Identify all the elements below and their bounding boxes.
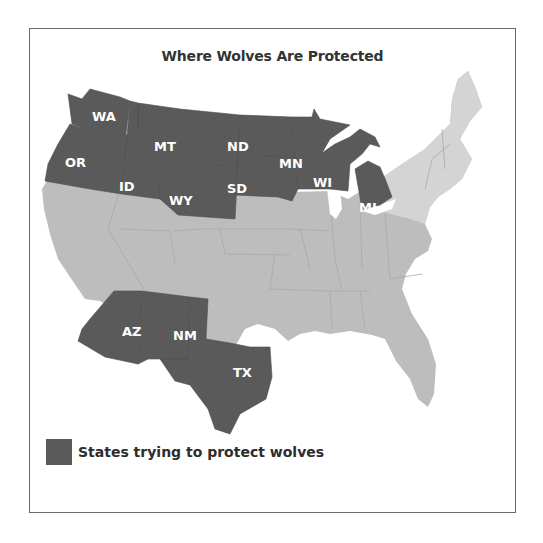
label-MN: MN xyxy=(279,156,303,171)
label-ID: ID xyxy=(119,179,135,194)
label-WI: WI xyxy=(313,175,332,190)
label-WY: WY xyxy=(169,193,193,208)
label-MT: MT xyxy=(154,139,176,154)
label-SD: SD xyxy=(227,181,247,196)
label-NM: NM xyxy=(173,328,197,343)
label-TX: TX xyxy=(233,365,252,380)
state-MT[interactable] xyxy=(138,103,240,172)
state-OR[interactable] xyxy=(45,124,130,194)
label-MI: MI xyxy=(359,200,377,215)
map-legend: States trying to protect wolves xyxy=(46,439,324,465)
map-frame: Where Wolves Are Protected xyxy=(29,28,516,513)
label-AZ: AZ xyxy=(122,324,142,339)
label-ND: ND xyxy=(227,139,249,154)
label-WA: WA xyxy=(92,109,116,124)
legend-swatch-protected xyxy=(46,439,72,465)
legend-label: States trying to protect wolves xyxy=(78,444,324,460)
label-OR: OR xyxy=(65,155,86,170)
